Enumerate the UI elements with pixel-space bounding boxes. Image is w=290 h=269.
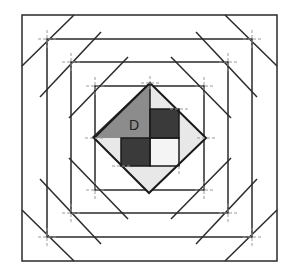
dark-square-bottom-left xyxy=(121,138,150,166)
dark-square-top-right xyxy=(150,109,179,138)
quilt-diagram: D xyxy=(0,0,290,269)
label-d: D xyxy=(129,117,139,133)
light-square-bottom-right xyxy=(150,138,179,166)
